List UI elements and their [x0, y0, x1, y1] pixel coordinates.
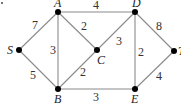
edge-a-c [58, 12, 97, 50]
weight-e-t: 4 [156, 69, 162, 83]
label-s: S [7, 43, 13, 57]
weight-s-b: 5 [30, 68, 36, 82]
weight-d-e: 2 [138, 45, 144, 59]
weight-a-b: 3 [50, 43, 56, 57]
node-labels: S A B C D E T [7, 0, 181, 104]
weight-c-d: 3 [116, 34, 122, 48]
node-t [171, 48, 177, 54]
label-b: B [54, 92, 62, 104]
edge-b-c [58, 50, 97, 89]
label-a: A [53, 0, 62, 10]
label-c: C [97, 53, 106, 67]
graph-diagram: 7 5 3 2 4 2 3 3 2 8 4 S A B C [0, 0, 181, 104]
node-s [16, 47, 22, 53]
weight-a-d: 4 [93, 0, 99, 12]
nodes [16, 9, 177, 92]
weight-d-t: 8 [156, 19, 162, 33]
weight-s-a: 7 [32, 18, 38, 32]
weight-b-c: 2 [80, 65, 86, 79]
graph-svg: 7 5 3 2 4 2 3 3 2 8 4 S A B C [0, 0, 181, 104]
stray-mark [1, 2, 3, 4]
label-t: T [178, 44, 181, 58]
label-d: D [131, 0, 141, 10]
weight-a-c: 2 [81, 19, 87, 33]
weight-b-e: 3 [93, 90, 99, 104]
label-e: E [130, 92, 139, 104]
